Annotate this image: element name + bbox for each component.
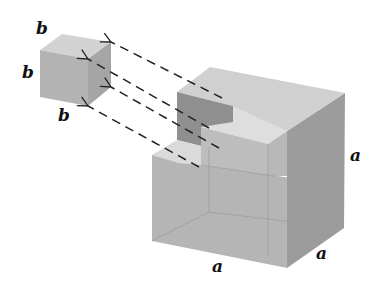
- label-big-depth: a: [316, 243, 327, 263]
- big-cube: [152, 67, 345, 268]
- label-big-right: a: [350, 145, 361, 165]
- small-cube-front-face: [40, 50, 88, 106]
- arrow-1: [111, 42, 222, 98]
- label-big-front: a: [212, 256, 223, 276]
- cube-diagram: b b b a a a: [0, 0, 370, 286]
- label-small-bottom: b: [58, 105, 70, 125]
- label-small-top: b: [36, 18, 48, 38]
- small-cube: [40, 34, 111, 106]
- label-small-left: b: [22, 62, 34, 82]
